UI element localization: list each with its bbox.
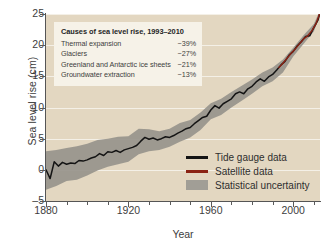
chart-legend: Tide gauge dataSatellite dataStatistical…: [186, 150, 310, 192]
cause-label: Groundwater extraction: [61, 70, 135, 80]
legend-item: Statistical uncertainty: [186, 178, 310, 192]
cause-label: Glaciers: [61, 49, 87, 59]
cause-row: Glaciers~27%: [61, 49, 196, 59]
causes-annotation-box: Causes of sea level rise, 1993–2010 Ther…: [54, 22, 202, 86]
cause-value: ~13%: [172, 70, 196, 80]
x-tick-mark: [87, 201, 88, 205]
annotation-title: Causes of sea level rise, 1993–2010: [61, 27, 196, 36]
legend-item: Tide gauge data: [186, 150, 310, 164]
legend-swatch: [186, 180, 208, 190]
x-tick-mark: [252, 201, 253, 205]
x-tick-mark: [231, 201, 232, 205]
x-tick-label: 1920: [108, 205, 148, 216]
cause-row: Greenland and Antarctic ice sheets~21%: [61, 60, 196, 70]
x-tick-label: 1960: [191, 205, 231, 216]
annotation-rows: Thermal expansion~39%Glaciers~27%Greenla…: [61, 39, 196, 81]
cause-value: ~21%: [172, 60, 196, 70]
legend-label: Statistical uncertainty: [215, 180, 310, 191]
legend-swatch: [186, 170, 208, 173]
cause-value: ~39%: [172, 39, 196, 49]
cause-row: Thermal expansion~39%: [61, 39, 196, 49]
x-tick-label: 1880: [26, 205, 66, 216]
cause-label: Greenland and Antarctic ice sheets: [61, 60, 171, 70]
sea-level-rise-figure: Sea level rise (cm) Year 2520151050–5 18…: [0, 0, 332, 248]
x-tick-mark: [149, 201, 150, 205]
legend-item: Satellite data: [186, 164, 310, 178]
x-tick-label: 2000: [273, 205, 313, 216]
cause-value: ~27%: [172, 49, 196, 59]
cause-label: Thermal expansion: [61, 39, 121, 49]
x-tick-mark: [170, 201, 171, 205]
x-axis-title: Year: [46, 228, 320, 240]
legend-label: Tide gauge data: [215, 152, 287, 163]
x-tick-mark: [314, 201, 315, 205]
legend-swatch: [186, 156, 208, 159]
legend-label: Satellite data: [215, 166, 273, 177]
cause-row: Groundwater extraction~13%: [61, 70, 196, 80]
x-tick-mark: [67, 201, 68, 205]
